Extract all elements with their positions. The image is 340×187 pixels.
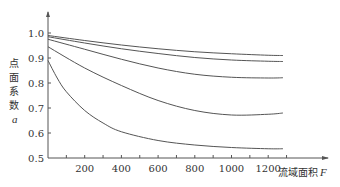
series-line-curve-5 — [48, 61, 283, 149]
y-axis-title-char-2: 面 — [9, 72, 19, 83]
x-axis-variable: F — [319, 166, 327, 178]
y-tick-label: 0.6 — [28, 128, 44, 139]
y-tick-label: 0.9 — [28, 53, 44, 64]
y-tick-label: 0.7 — [28, 103, 44, 114]
y-tick-label: 1.0 — [28, 28, 44, 39]
y-axis-title-char-3: 系 — [9, 86, 19, 97]
x-axis-title: 流域面积 — [278, 166, 318, 178]
x-tick-label: 1000 — [219, 163, 244, 174]
x-tick-label: 600 — [149, 163, 168, 174]
series-line-curve-3 — [48, 39, 283, 78]
x-axis-arrow — [322, 156, 329, 160]
x-tick-label: 400 — [112, 163, 131, 174]
y-axis-variable: a — [12, 113, 18, 125]
series-group — [48, 36, 283, 149]
series-line-curve-1 — [48, 36, 283, 56]
x-tick-label: 800 — [185, 163, 204, 174]
series-line-curve-4 — [48, 47, 283, 115]
y-tick-label: 0.8 — [28, 78, 44, 89]
line-chart: 0.50.60.70.80.91.020040060080010001200 点… — [0, 0, 340, 187]
y-tick-label: 0.5 — [28, 153, 44, 164]
y-axis-arrow — [46, 11, 50, 17]
axis-labels: 点 面 系 数 a 流域面积 F — [9, 58, 327, 178]
x-tick-label: 200 — [75, 163, 94, 174]
y-axis-title-char-1: 点 — [9, 58, 19, 69]
y-axis-title-char-4: 数 — [9, 99, 19, 111]
axes: 0.50.60.70.80.91.020040060080010001200 — [28, 11, 329, 174]
